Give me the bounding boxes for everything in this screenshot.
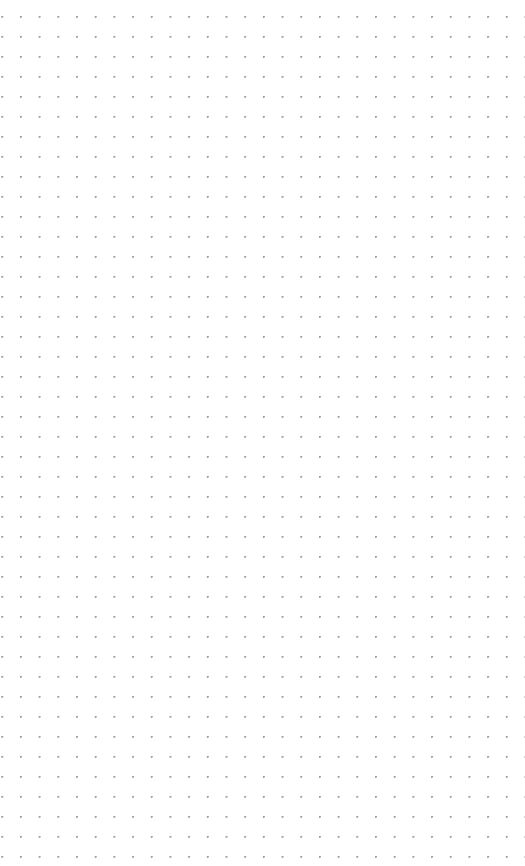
canvas-app-root xyxy=(0,0,525,866)
canvas-content-layer xyxy=(0,0,525,866)
dot-grid-canvas-surface[interactable] xyxy=(0,0,525,866)
